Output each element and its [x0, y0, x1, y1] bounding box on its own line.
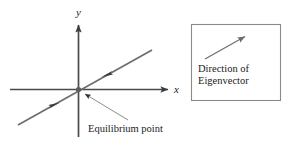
legend-caption: Direction of Eigenvector [198, 63, 249, 87]
equilibrium-point-label: Equilibrium point [88, 123, 163, 135]
trajectory-arrow-lower-icon [48, 102, 60, 108]
equilibrium-point-marker [76, 87, 81, 92]
x-axis-label: x [174, 83, 179, 95]
legend-caption-line-1: Direction of [198, 63, 249, 75]
y-axis-label: y [76, 6, 81, 18]
legend-caption-line-2: Eigenvector [198, 75, 249, 87]
eigenvector-phase-diagram: y x Equilibrium point Direction of Eigen… [0, 0, 291, 146]
legend-eigenvector-arrow-icon [205, 37, 245, 60]
eigenvector-trajectory-line [18, 50, 152, 125]
equilibrium-leader-line [85, 94, 128, 120]
